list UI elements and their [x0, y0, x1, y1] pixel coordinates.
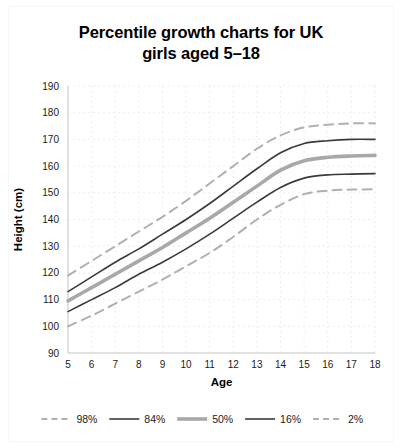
x-tick-8: 8 [136, 359, 142, 370]
x-tick-10: 10 [181, 359, 193, 370]
y-tick-190: 190 [42, 81, 59, 92]
x-tick-6: 6 [89, 359, 95, 370]
y-tick-90: 90 [48, 348, 60, 359]
legend-label-50pct[interactable]: 50% [212, 413, 233, 425]
x-tick-11: 11 [204, 359, 215, 370]
y-tick-100: 100 [42, 321, 59, 332]
y-tick-140: 140 [42, 214, 59, 225]
y-tick-160: 160 [42, 161, 59, 172]
y-tick-120: 120 [42, 267, 59, 278]
legend-label-16pct[interactable]: 16% [280, 413, 301, 425]
legend-label-98pct[interactable]: 98% [76, 413, 97, 425]
x-tick-15: 15 [299, 359, 311, 370]
y-tick-170: 170 [42, 134, 59, 145]
legend-label-2pct[interactable]: 2% [348, 413, 363, 425]
x-tick-9: 9 [160, 359, 166, 370]
x-axis-title: Age [211, 376, 233, 388]
x-tick-12: 12 [228, 359, 240, 370]
chart-legend: 98%84%50%16%2% [41, 413, 363, 425]
series-line-98pct [68, 123, 375, 275]
x-axis-tick-labels: 56789101112131415161718 [65, 359, 381, 370]
x-tick-14: 14 [275, 359, 287, 370]
y-axis-tick-labels: 90100110120130140150160170180190 [42, 81, 59, 359]
x-tick-13: 13 [251, 359, 263, 370]
y-tick-150: 150 [42, 187, 59, 198]
x-tick-17: 17 [346, 359, 358, 370]
chart-plot: 90100110120130140150160170180190 5678910… [0, 0, 402, 448]
x-tick-7: 7 [112, 359, 118, 370]
series-line-84pct [68, 139, 375, 291]
y-tick-130: 130 [42, 241, 59, 252]
grid-lines [68, 86, 375, 353]
y-axis-title: Height (cm) [12, 188, 24, 251]
legend-label-84pct[interactable]: 84% [144, 413, 165, 425]
x-tick-5: 5 [65, 359, 71, 370]
y-tick-110: 110 [43, 294, 59, 305]
chart-figure: Percentile growth charts for UK girls ag… [0, 0, 402, 448]
x-tick-16: 16 [322, 359, 334, 370]
series-line-50pct [68, 155, 375, 301]
y-tick-180: 180 [42, 107, 59, 118]
x-tick-18: 18 [369, 359, 381, 370]
data-series-group [68, 123, 375, 326]
